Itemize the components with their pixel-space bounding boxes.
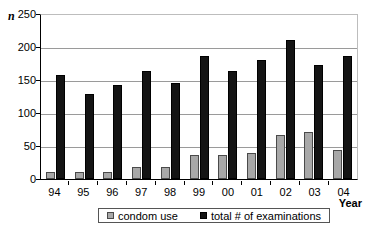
x-tick-03: 03	[300, 182, 329, 198]
bar-total-examinations-95	[85, 94, 94, 179]
x-tick-mark	[328, 181, 329, 185]
y-axis-labels: 250 200 150 100 50 0	[0, 0, 36, 237]
legend-swatch-total-examinations	[200, 212, 207, 219]
bar-group	[70, 15, 99, 179]
bar-condom-use-01	[247, 153, 256, 179]
bar-total-examinations-02	[286, 40, 295, 179]
bar-total-examinations-94	[56, 75, 65, 179]
x-tick-label: 02	[280, 186, 292, 198]
x-tick-01: 01	[242, 182, 271, 198]
x-tick-mark	[126, 181, 127, 185]
legend-label-total-examinations: total # of examinations	[211, 210, 321, 222]
x-tick-04: 04	[329, 182, 358, 198]
bar-condom-use-03	[304, 132, 313, 179]
x-tick-label: 01	[251, 186, 263, 198]
x-tick-label: 97	[135, 186, 147, 198]
x-tick-mark	[68, 181, 69, 185]
legend-swatch-condom-use	[107, 212, 114, 219]
x-tick-mark	[155, 181, 156, 185]
bar-group	[156, 15, 185, 179]
bar-condom-use-95	[75, 172, 84, 179]
bar-series-container	[41, 15, 357, 179]
bar-total-examinations-04	[343, 56, 352, 179]
x-tick-label: 03	[308, 186, 320, 198]
x-tick-02: 02	[271, 182, 300, 198]
x-tick-00: 00	[213, 182, 242, 198]
x-tick-99: 99	[185, 182, 214, 198]
bar-total-examinations-97	[142, 71, 151, 179]
x-tick-label: 95	[77, 186, 89, 198]
x-axis-labels: 9495969798990001020304	[40, 182, 358, 198]
chart-legend: condom use total # of examinations	[98, 208, 330, 223]
bar-group	[98, 15, 127, 179]
bar-total-examinations-01	[257, 60, 266, 179]
bar-group	[185, 15, 214, 179]
bar-total-examinations-99	[200, 56, 209, 179]
legend-item-condom-use: condom use	[107, 210, 178, 222]
x-tick-label: 96	[106, 186, 118, 198]
y-tick-150: 150	[2, 75, 36, 85]
legend-label-condom-use: condom use	[118, 210, 178, 222]
bar-condom-use-96	[103, 172, 112, 179]
x-tick-label: 94	[48, 186, 60, 198]
x-tick-mark	[270, 181, 271, 185]
x-tick-label: 98	[164, 186, 176, 198]
x-tick-mark	[241, 181, 242, 185]
x-tick-98: 98	[156, 182, 185, 198]
bar-total-examinations-00	[228, 71, 237, 179]
bar-group	[271, 15, 300, 179]
bar-group	[41, 15, 70, 179]
y-tick-250: 250	[2, 9, 36, 19]
x-tick-95: 95	[69, 182, 98, 198]
legend-item-total-examinations: total # of examinations	[200, 210, 321, 222]
bar-condom-use-94	[46, 172, 55, 179]
x-tick-97: 97	[127, 182, 156, 198]
bar-condom-use-00	[218, 155, 227, 179]
bar-condom-use-97	[132, 167, 141, 179]
x-axis-title: Year	[339, 197, 362, 209]
plot-area	[40, 14, 358, 180]
y-tick-200: 200	[2, 42, 36, 52]
x-tick-label: 99	[193, 186, 205, 198]
bar-total-examinations-98	[171, 83, 180, 179]
bar-chart: n 250 200 150 100 50 0 94959697989900010…	[0, 0, 372, 237]
bar-group	[300, 15, 329, 179]
bar-group	[242, 15, 271, 179]
x-tick-label: 00	[222, 186, 234, 198]
x-tick-mark	[184, 181, 185, 185]
bar-condom-use-99	[190, 155, 199, 179]
bar-total-examinations-03	[314, 65, 323, 179]
bar-group	[213, 15, 242, 179]
bar-group	[328, 15, 357, 179]
bar-total-examinations-96	[113, 85, 122, 179]
bar-group	[127, 15, 156, 179]
y-tick-0: 0	[2, 174, 36, 184]
x-tick-96: 96	[98, 182, 127, 198]
x-tick-mark	[97, 181, 98, 185]
y-tick-100: 100	[2, 108, 36, 118]
bar-condom-use-04	[333, 150, 342, 179]
bar-condom-use-02	[276, 135, 285, 179]
y-tick-50: 50	[2, 141, 36, 151]
x-tick-94: 94	[40, 182, 69, 198]
x-tick-mark	[299, 181, 300, 185]
x-tick-mark	[212, 181, 213, 185]
bar-condom-use-98	[161, 167, 170, 179]
